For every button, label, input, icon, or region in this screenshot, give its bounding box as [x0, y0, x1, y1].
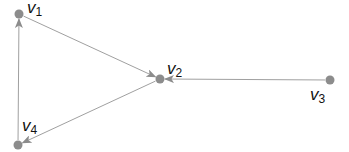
graph-diagram: v1 v2 v3 v4	[0, 0, 349, 152]
edge-v2-v4	[23, 81, 156, 143]
edge-v3-v2	[165, 79, 325, 80]
edge-v1-v2	[24, 16, 156, 77]
node-label-v2: v2	[167, 60, 182, 79]
node-label-v4: v4	[22, 117, 37, 136]
node-v1	[15, 10, 24, 19]
node-v3	[326, 76, 335, 85]
node-label-v3: v3	[310, 86, 325, 105]
node-v4	[14, 141, 23, 150]
node-v2	[156, 75, 165, 84]
edge-v4-v1	[18, 19, 19, 140]
node-label-v1: v1	[27, 0, 42, 18]
